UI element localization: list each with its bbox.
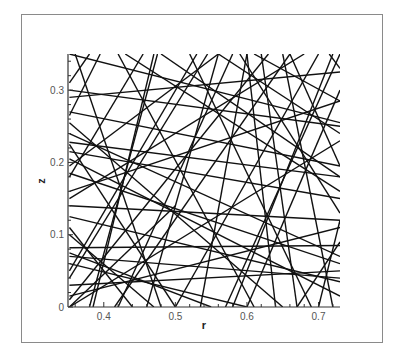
fiber-segment [69, 227, 132, 307]
fiber-segment [69, 235, 153, 307]
fiber-segments [69, 54, 340, 307]
x-axis-label: r [202, 319, 207, 331]
x-tick-label: 0.6 [240, 311, 254, 322]
fiber-segment [75, 54, 161, 307]
fiber-segment [69, 54, 100, 115]
y-tick-label: 0.3 [50, 85, 64, 96]
fiber-segment [69, 152, 340, 199]
y-tick-label: 0.1 [50, 229, 64, 240]
fiber-segment [261, 54, 297, 307]
fiber-segment [69, 159, 340, 296]
line-network-plot: 0.40.50.60.700.10.20.3 r z [0, 0, 401, 356]
fiber-segment [69, 253, 211, 307]
x-tick-label: 0.7 [312, 311, 326, 322]
y-tick-label: 0 [58, 302, 64, 313]
x-tick-label: 0.4 [97, 311, 111, 322]
fiber-segment [69, 256, 340, 278]
y-axis-label: z [35, 178, 47, 184]
y-tick-label: 0.2 [50, 157, 64, 168]
x-tick-label: 0.5 [168, 311, 182, 322]
fiber-segment [69, 246, 340, 248]
